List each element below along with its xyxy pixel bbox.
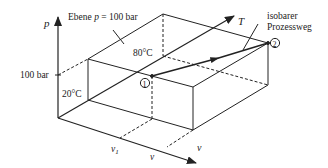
v-tick-label: v: [150, 152, 155, 162]
temp-label-80: 80°C: [133, 48, 153, 58]
pvt-diagram: p T v Ebene p = 100 bar 100 bar 20°C 80°…: [0, 0, 328, 168]
temp-label-20: 20°C: [62, 89, 82, 99]
pressure-tick-label: 100 bar: [20, 70, 50, 80]
box-bottom-right: [193, 85, 268, 130]
v-axis-label: v: [197, 142, 202, 153]
pressure-guide: [58, 59, 88, 75]
t-axis-label: T: [238, 15, 245, 27]
process-label-line2: Prozessweg: [267, 22, 312, 32]
v1-guide: [120, 119, 152, 138]
v-guide: [167, 130, 193, 147]
plane-label-leader: [113, 30, 124, 44]
process-label-line1: isobarer: [267, 11, 298, 21]
plane-label: Ebene p = 100 bar: [68, 12, 139, 22]
box-bottom-front: [88, 100, 193, 130]
point-1-dot: [151, 75, 154, 78]
t-axis: [58, 16, 234, 118]
process-path-2: [212, 43, 268, 60]
p-axis-label: p: [43, 17, 50, 29]
point-2-dot: [267, 42, 270, 45]
state-1-number: 1: [143, 80, 147, 89]
t2-plane-guide: [163, 56, 268, 85]
state-2-number: 2: [273, 40, 277, 49]
v1-label: v1: [111, 144, 119, 156]
